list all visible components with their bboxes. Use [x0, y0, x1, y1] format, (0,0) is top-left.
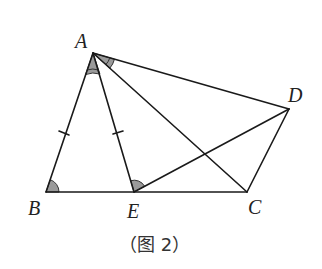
- segment-AB: [46, 53, 93, 192]
- segment-CD: [247, 109, 289, 192]
- figure-caption: （图 2）: [119, 234, 190, 255]
- label-A: A: [73, 30, 88, 52]
- label-D: D: [287, 84, 303, 106]
- tick-AB: [59, 131, 69, 135]
- segment-ED: [134, 109, 289, 192]
- label-E: E: [126, 200, 139, 222]
- segment-AC: [93, 53, 247, 192]
- tick-AE: [113, 131, 123, 134]
- geometry-figure: A B E C D （图 2）: [0, 0, 322, 269]
- label-B: B: [28, 197, 40, 219]
- segment-AD: [93, 53, 289, 109]
- segment-AE: [93, 53, 134, 192]
- label-C: C: [248, 196, 262, 218]
